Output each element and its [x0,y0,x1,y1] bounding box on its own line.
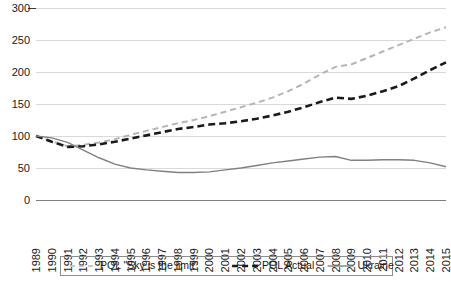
x-tick-label: 1990 [46,248,58,272]
x-tick-label: 2012 [393,248,405,272]
x-tick-label: 1991 [62,248,74,272]
y-axis-tick-labels: 050100150200250300 [12,2,30,206]
legend-label-2: Ukraine [358,259,394,271]
chart-container: 050100150200250300 198919901991199219931… [0,0,451,283]
x-tick-label: 2015 [440,248,451,272]
x-tick-label: 2014 [424,248,436,272]
line-chart: 050100150200250300 198919901991199219931… [0,0,451,283]
x-tick-label: 1992 [77,248,89,272]
y-tick-label: 0 [24,194,30,206]
y-tick-label: 300 [12,2,30,14]
y-tick-label: 150 [12,98,30,110]
x-tick-label: 2001 [219,248,231,272]
gridlines [36,9,446,169]
x-tick-label: 1989 [30,248,42,272]
x-tick-label: 2000 [203,248,215,272]
x-tick-label: 2008 [330,248,342,272]
y-tick-label: 100 [12,130,30,142]
series-lines [36,27,446,172]
x-tick-label: 2009 [345,248,357,272]
x-tick-label: 2007 [314,248,326,272]
series-line-2 [36,136,446,172]
y-tick-label: 250 [12,34,30,46]
y-tick-label: 200 [12,66,30,78]
series-line-0 [36,27,446,146]
y-tick-label: 50 [18,162,30,174]
x-tick-label: 2003 [251,248,263,272]
legend-label-1: POL Actual [262,259,314,271]
legend-label-0: POL "Sky is the limit" [100,259,198,271]
x-tick-label: 2002 [235,248,247,272]
x-tick-label: 2013 [408,248,420,272]
